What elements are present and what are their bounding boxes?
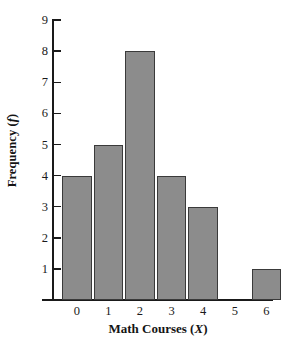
y-axis-tick <box>54 19 61 21</box>
y-axis-tick <box>54 50 61 52</box>
y-axis-tick <box>54 206 61 208</box>
bar <box>188 207 218 300</box>
bar <box>157 176 187 300</box>
x-axis-tick-label: 5 <box>220 305 250 318</box>
x-axis-tick-label: 1 <box>94 305 124 318</box>
plot-area: 123456789 0123456 <box>0 0 290 343</box>
bar <box>252 269 282 300</box>
x-axis-tick-label: 6 <box>252 305 282 318</box>
y-axis-tick-label: 8 <box>30 45 48 58</box>
y-axis-line <box>52 19 54 301</box>
y-axis-tick <box>54 175 61 177</box>
y-axis-tick-label: 4 <box>30 170 48 183</box>
y-axis-tick <box>54 113 61 115</box>
y-axis-tick-label: 2 <box>30 232 48 245</box>
y-axis-tick-label: 1 <box>30 263 48 276</box>
bar <box>62 176 92 300</box>
bar <box>94 145 124 301</box>
x-axis-tick-label: 4 <box>188 305 218 318</box>
y-axis-tick-label: 6 <box>30 107 48 120</box>
x-axis-tick-label: 3 <box>157 305 187 318</box>
x-axis-tick-label: 2 <box>125 305 155 318</box>
bar <box>125 51 155 300</box>
x-axis-title-text: Math Courses ( <box>109 321 195 336</box>
y-axis-tick-label: 7 <box>30 76 48 89</box>
y-axis-tick <box>54 144 61 146</box>
y-axis-tick-label: 9 <box>30 14 48 27</box>
x-axis-tick-label: 0 <box>62 305 92 318</box>
frequency-bar-chart: Frequency (f) 123456789 0123456 Math Cou… <box>0 0 290 343</box>
x-axis-title: Math Courses (X) <box>42 322 274 335</box>
y-axis-tick-label: 3 <box>30 201 48 214</box>
y-axis-tick <box>54 237 61 239</box>
y-axis-tick <box>54 268 61 270</box>
x-axis-title-tail: ) <box>203 321 207 336</box>
y-axis-tick <box>54 82 61 84</box>
y-axis-tick-label: 5 <box>30 139 48 152</box>
x-axis-variable: X <box>194 321 203 336</box>
